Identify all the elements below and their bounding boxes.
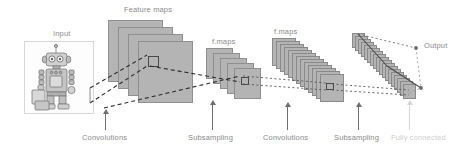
projection-line	[104, 76, 240, 108]
output-node	[419, 86, 423, 90]
fully-connected-line	[416, 48, 421, 88]
projection-line	[150, 66, 240, 82]
stage-label-convolutions-1: Convolutions	[82, 133, 127, 142]
fully-connected-line	[358, 34, 416, 48]
convolutions-2-arrow	[287, 106, 288, 130]
fully-connected-line	[409, 88, 421, 93]
stage-label-subsampling-1: Subsampling	[188, 133, 233, 142]
fully-connected-line	[387, 66, 421, 88]
projection-line	[90, 66, 147, 103]
stage-label-subsampling-2: Subsampling	[334, 133, 379, 142]
projection-line	[243, 76, 326, 83]
output-node	[414, 46, 418, 50]
fully-connected-line	[358, 34, 387, 66]
stage-label-convolutions-2: Convolutions	[263, 133, 308, 142]
projection-line	[332, 84, 409, 90]
subsampling-1-arrow	[212, 104, 213, 130]
connector-overlay	[0, 0, 458, 155]
stage-label-fully-connected: Fully connected	[391, 133, 446, 142]
cnn-architecture-diagram: Input Feature maps f.maps f.maps Output	[0, 0, 458, 155]
fully-connected-arrow	[409, 104, 410, 130]
convolutions-1-arrow	[105, 113, 106, 130]
projection-line	[332, 90, 409, 95]
projection-line	[243, 84, 326, 90]
subsampling-2-arrow	[358, 106, 359, 130]
